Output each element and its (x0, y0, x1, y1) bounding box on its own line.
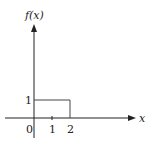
y-axis-label: f(x) (24, 9, 44, 22)
origin-label: 0 (26, 123, 33, 136)
y-tick-1-label: 1 (25, 94, 32, 107)
x-axis-arrow-icon (128, 115, 136, 121)
x-tick-1-label: 1 (49, 123, 56, 136)
y-axis-arrow-icon (31, 24, 37, 32)
chart-canvas: f(x) x 0 1 2 1 (0, 0, 154, 149)
x-axis-label: x (139, 112, 146, 125)
function-curve (34, 100, 70, 118)
x-tick-2-label: 2 (67, 123, 74, 136)
